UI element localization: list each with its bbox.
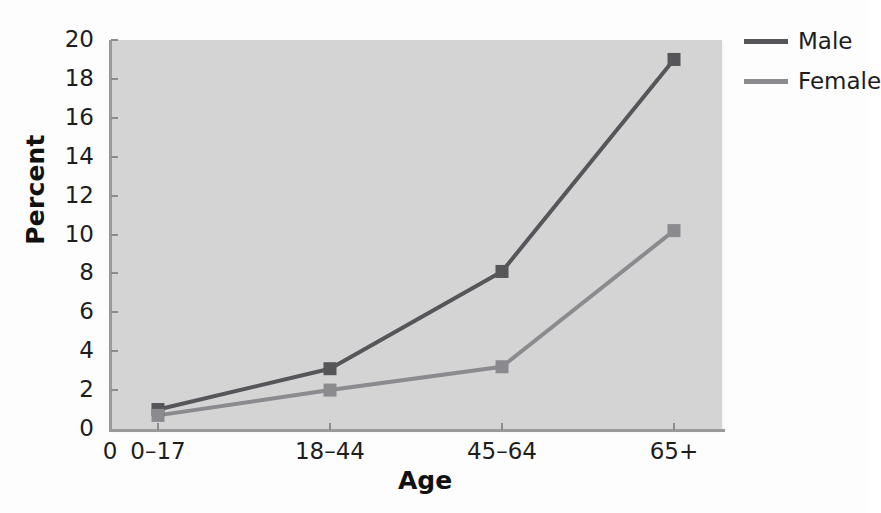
- y-axis-tick-label: 18: [48, 67, 94, 90]
- data-point-marker: [668, 224, 681, 237]
- y-axis-tick-label: 8: [48, 261, 94, 284]
- y-axis-tick: [111, 195, 118, 197]
- data-point-marker: [324, 362, 337, 375]
- y-axis-tick-label: 16: [48, 106, 94, 129]
- y-axis-tick: [111, 117, 118, 119]
- y-axis-tick-label: 4: [48, 339, 94, 362]
- x-axis-tick-label: 45–64: [432, 440, 572, 463]
- data-point-marker: [152, 409, 165, 422]
- y-axis-tick: [111, 350, 118, 352]
- legend-item-label: Male: [798, 30, 852, 53]
- data-point-marker: [324, 384, 337, 397]
- legend-item-female[interactable]: Female: [744, 64, 868, 98]
- y-axis-tick-label: 6: [48, 300, 94, 323]
- y-axis-tick: [111, 156, 118, 158]
- y-axis-line: [109, 40, 112, 432]
- x-axis-tick: [157, 423, 159, 430]
- x-axis-tick: [329, 423, 331, 430]
- series-line-female: [158, 231, 674, 416]
- y-axis-tick: [111, 389, 118, 391]
- data-point-marker: [668, 53, 681, 66]
- plot-svg: [110, 40, 722, 429]
- x-axis-tick: [673, 423, 675, 430]
- legend-item-label: Female: [798, 70, 881, 93]
- y-axis-tick-label: 14: [48, 145, 94, 168]
- legend-item-male[interactable]: Male: [744, 24, 868, 58]
- y-axis-tick: [111, 311, 118, 313]
- series-layer: [152, 53, 681, 422]
- y-axis-tick: [111, 234, 118, 236]
- data-point-marker: [496, 265, 509, 278]
- y-axis-tick: [111, 39, 118, 41]
- x-axis-tick-label: 65+: [604, 440, 744, 463]
- x-axis-tick-label: 0–17: [88, 440, 228, 463]
- x-axis-tick-label: 18–44: [260, 440, 400, 463]
- y-axis-tick-label: 10: [48, 223, 94, 246]
- x-axis-tick: [501, 423, 503, 430]
- series-line-male: [158, 59, 674, 409]
- y-axis-tick-label: 2: [48, 378, 94, 401]
- legend-swatch-icon: [744, 39, 788, 44]
- plot-area: [110, 40, 722, 429]
- legend-swatch-icon: [744, 79, 788, 84]
- y-axis-title: Percent: [21, 120, 50, 260]
- data-point-marker: [496, 360, 509, 373]
- y-axis-tick-label: 0: [48, 417, 94, 440]
- x-axis-title: Age: [355, 466, 495, 495]
- y-axis-tick: [111, 272, 118, 274]
- x-axis-line: [109, 429, 725, 432]
- y-axis-tick-label: 12: [48, 184, 94, 207]
- chart-legend: MaleFemale: [744, 24, 868, 104]
- y-axis-tick: [111, 78, 118, 80]
- y-axis-tick-label: 20: [48, 28, 94, 51]
